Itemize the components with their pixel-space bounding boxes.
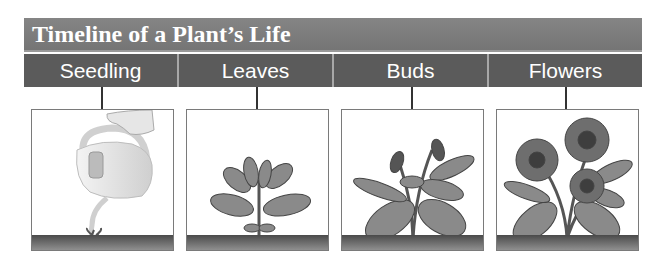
flowering-pansy-illustration: [497, 110, 639, 251]
panel-leaves: [186, 109, 329, 251]
connector-line: [565, 87, 567, 109]
stage-label-flowers: Flowers: [489, 54, 642, 87]
watering-can-icon: [77, 128, 153, 240]
connector-line: [256, 87, 258, 109]
watering-can-seedling-illustration: [32, 110, 174, 251]
bud-plant-icon: [351, 138, 477, 249]
budding-plant-illustration: [342, 110, 484, 251]
connector-line: [101, 87, 103, 109]
leafy-plant-illustration: [187, 110, 329, 251]
stage-label-leaves: Leaves: [179, 54, 334, 87]
stage-label-seedling: Seedling: [24, 54, 179, 87]
stage-label-bar: Seedling Leaves Buds Flowers: [24, 54, 642, 87]
stage-label-buds: Buds: [334, 54, 489, 87]
soil-strip: [187, 235, 328, 250]
soil-strip: [497, 235, 638, 250]
flower-plant-icon: [502, 118, 635, 249]
page-title: Timeline of a Plant’s Life: [32, 19, 291, 49]
title-bar: Timeline of a Plant’s Life: [24, 18, 642, 52]
soil-strip: [32, 235, 173, 250]
panel-flowers: [496, 109, 639, 251]
panel-buds: [341, 109, 484, 251]
connector-line: [411, 87, 413, 109]
panel-seedling: [31, 109, 174, 251]
soil-strip: [342, 235, 483, 250]
leaf-plant-icon: [208, 156, 312, 238]
